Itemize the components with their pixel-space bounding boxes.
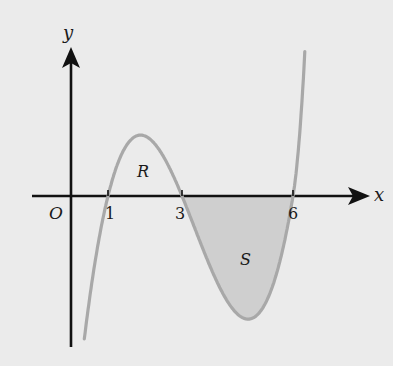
x-tick-label-1: 1 — [105, 204, 115, 223]
x-tick-label-3: 3 — [175, 204, 185, 223]
cubic-graph-figure: y x O 1 3 6 R S — [0, 0, 393, 366]
region-s-shading — [182, 196, 293, 319]
origin-label: O — [49, 203, 63, 223]
y-axis-label: y — [62, 22, 74, 43]
region-r-label: R — [136, 162, 149, 181]
region-s-label: S — [240, 250, 251, 269]
x-axis-label: x — [374, 184, 384, 205]
x-tick-label-6: 6 — [288, 204, 298, 223]
